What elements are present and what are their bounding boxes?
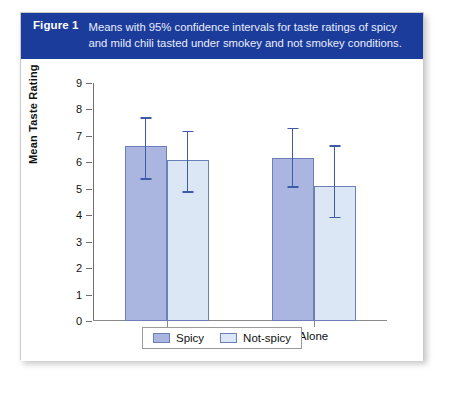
y-axis-tick-label: 0 [76, 315, 82, 327]
legend-item: Not-spicy [220, 332, 291, 344]
y-axis-tick-label: 1 [76, 289, 82, 301]
legend-label: Not-spicy [243, 332, 291, 344]
y-axis-tick [86, 109, 92, 110]
error-bar-line [145, 117, 147, 178]
y-axis-tick-label: 5 [76, 183, 82, 195]
figure-caption-text: Means with 95% confidence intervals for … [89, 19, 409, 51]
error-bar-line [292, 128, 294, 186]
y-axis-tick-label: 9 [76, 77, 82, 89]
error-bar-cap [329, 145, 340, 147]
error-bar-cap [182, 191, 193, 193]
error-bar-line [334, 145, 336, 216]
legend-swatch [220, 333, 237, 343]
error-bar-cap [182, 131, 193, 133]
figure-card: Figure 1 Means with 95% confidence inter… [20, 12, 424, 360]
chart-legend: SpicyNot-spicy [142, 327, 302, 349]
y-axis-tick-label: 3 [76, 236, 82, 248]
y-axis-tick [86, 83, 92, 84]
y-axis-tick-label: 2 [76, 262, 82, 274]
y-axis-tick [86, 162, 92, 163]
error-bar-cap [287, 128, 298, 130]
y-axis-tick [86, 242, 92, 243]
y-axis-tick [86, 215, 92, 216]
y-axis-tick-label: 4 [76, 209, 82, 221]
figure-caption-header: Figure 1 Means with 95% confidence inter… [21, 13, 423, 59]
y-axis-tick [86, 268, 92, 269]
y-axis-line [93, 83, 94, 321]
legend-item: Spicy [153, 332, 204, 344]
figure-number-label: Figure 1 [33, 19, 79, 31]
error-bar-cap [140, 178, 151, 180]
x-axis-category-label: Alone [299, 330, 328, 342]
legend-swatch [153, 333, 170, 343]
chart-plot-area: Mean Taste Rating 0123456789SmokeAlone S… [21, 59, 423, 361]
legend-label: Spicy [176, 332, 204, 344]
y-axis-tick-label: 7 [76, 130, 82, 142]
error-bar-cap [287, 186, 298, 188]
y-axis-tick [86, 136, 92, 137]
y-axis-tick [86, 189, 92, 190]
y-axis-tick-label: 6 [76, 156, 82, 168]
y-axis-tick [86, 295, 92, 296]
y-axis-title: Mean Taste Rating [27, 148, 39, 164]
chart-axes: 0123456789SmokeAlone [93, 83, 387, 321]
x-axis-tick [314, 321, 315, 327]
y-axis-tick-label: 8 [76, 103, 82, 115]
y-axis-tick [86, 321, 92, 322]
error-bar-cap [329, 217, 340, 219]
error-bar-cap [140, 117, 151, 119]
error-bar-line [187, 131, 189, 192]
